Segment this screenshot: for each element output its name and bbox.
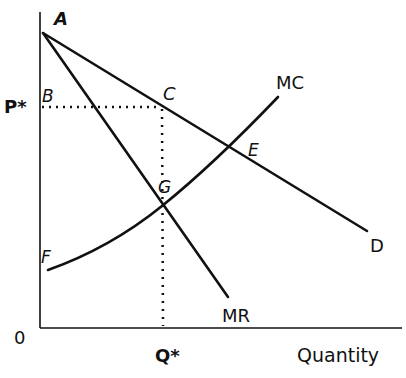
demand-curve (43, 33, 367, 231)
price-label: P* (4, 96, 27, 117)
point-label-a: A (52, 8, 68, 29)
marginal-revenue-curve (43, 33, 228, 297)
monopoly-diagram: A B P* C MC E G D F MR 0 Q* Quantity (0, 0, 406, 378)
x-axis-label: Quantity (297, 344, 379, 366)
quantity-tick-label: Q* (155, 345, 180, 366)
mr-label: MR (222, 305, 250, 326)
origin-label: 0 (14, 327, 25, 348)
point-label-g: G (158, 177, 171, 197)
demand-label: D (370, 235, 384, 256)
quantity-guide-line (162, 109, 163, 326)
mc-label: MC (276, 72, 304, 93)
point-label-c: C (163, 83, 176, 104)
point-label-e: E (248, 140, 259, 160)
point-label-b: B (42, 86, 54, 106)
point-label-f: F (41, 247, 51, 267)
